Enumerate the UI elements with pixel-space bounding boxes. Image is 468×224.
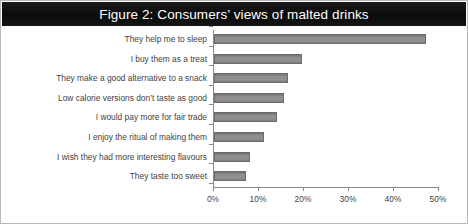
category-label: They help me to sleep	[11, 34, 207, 44]
chart-plot-area: They help me to sleepI buy them as a tre…	[1, 26, 467, 223]
category-label: They taste too sweet	[11, 171, 207, 181]
y-axis-tick	[209, 144, 213, 145]
bar	[214, 152, 250, 162]
x-axis-tick-label: 50%	[430, 194, 447, 204]
bar	[214, 93, 284, 103]
category-label: I enjoy the ritual of making them	[11, 132, 207, 142]
x-axis-tick-label: 10%	[250, 194, 267, 204]
bar-row: They make a good alternative to a snack	[1, 69, 467, 89]
x-axis-tick-label: 30%	[340, 194, 357, 204]
x-axis-tick	[213, 187, 214, 191]
bar	[214, 171, 246, 181]
bar-row: I enjoy the ritual of making them	[1, 128, 467, 148]
bar	[214, 54, 302, 64]
category-label: I would pay more for fair trade	[11, 112, 207, 122]
x-axis-tick	[393, 187, 394, 191]
x-axis-tick	[258, 187, 259, 191]
x-axis-tick	[303, 187, 304, 191]
x-axis-tick-label: 40%	[385, 194, 402, 204]
x-axis-tick-label: 0%	[207, 194, 219, 204]
bar	[214, 112, 277, 122]
y-axis-tick	[209, 85, 213, 86]
bar-row: I would pay more for fair trade	[1, 108, 467, 128]
y-axis-tick	[209, 104, 213, 105]
figure-title: Figure 2: Consumers’ views of malted dri…	[99, 7, 368, 22]
bar-row: I buy them as a treat	[1, 50, 467, 70]
bar	[214, 73, 288, 83]
y-axis-tick	[209, 183, 213, 184]
x-axis-tick	[438, 187, 439, 191]
x-axis-tick	[348, 187, 349, 191]
x-axis-line	[213, 187, 439, 188]
y-axis-tick	[209, 163, 213, 164]
figure-container: Figure 2: Consumers’ views of malted dri…	[0, 0, 468, 224]
y-axis-tick	[209, 124, 213, 125]
figure-title-band: Figure 2: Consumers’ views of malted dri…	[2, 2, 466, 26]
category-label: I wish they had more interesting flavour…	[11, 152, 207, 162]
category-label: I buy them as a treat	[11, 54, 207, 64]
bar-row: They help me to sleep	[1, 30, 467, 50]
bar-row: Low calorie versions don’t taste as good	[1, 89, 467, 109]
bar-row: I wish they had more interesting flavour…	[1, 148, 467, 168]
bar	[214, 132, 264, 142]
bar	[214, 34, 426, 44]
category-label: Low calorie versions don’t taste as good	[11, 93, 207, 103]
y-axis-tick	[209, 46, 213, 47]
y-axis-tick	[209, 65, 213, 66]
x-axis-tick-label: 20%	[295, 194, 312, 204]
bar-row: They taste too sweet	[1, 167, 467, 187]
y-axis-tick	[209, 26, 213, 27]
category-label: They make a good alternative to a snack	[11, 73, 207, 83]
